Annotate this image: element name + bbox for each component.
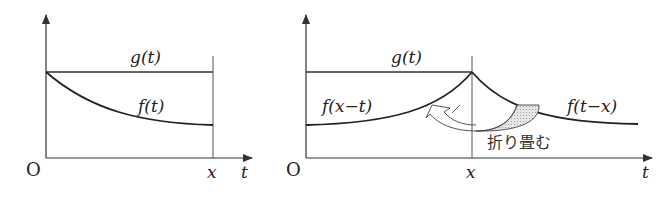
x-label: x: [207, 162, 217, 182]
f-label: f(t): [136, 96, 164, 116]
g-label: g(t): [130, 47, 161, 67]
g-label: g(t): [391, 47, 422, 67]
diagram-canvas: g(t) f(t) O x t g(t) f(x−t) f(t−x) 折り畳む …: [0, 0, 668, 198]
fold-annotation: 折り畳む: [487, 133, 551, 152]
origin-label: O: [26, 159, 41, 180]
right-diagram: g(t) f(x−t) f(t−x) 折り畳む O x t: [286, 15, 652, 182]
f-reflected-label: f(x−t): [320, 96, 372, 116]
f-shifted-label: f(t−x): [565, 96, 617, 116]
f-curve: [46, 72, 213, 125]
t-axis-label: t: [241, 162, 248, 182]
left-diagram: g(t) f(t) O x t: [26, 15, 252, 182]
origin-label: O: [286, 159, 301, 180]
x-label: x: [466, 162, 476, 182]
fold-arrow-icon: [426, 105, 539, 131]
t-axis-label: t: [642, 162, 649, 182]
